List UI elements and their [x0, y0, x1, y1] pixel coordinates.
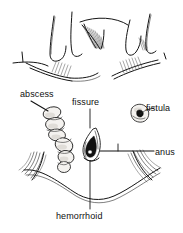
illustration-canvas: [0, 0, 183, 233]
mucosal-column-center: [71, 12, 82, 56]
label-hemorrhoid: hemorrhoid: [56, 211, 103, 221]
label-fistula: fistula: [146, 103, 170, 113]
fissure-highlight: [88, 150, 92, 154]
label-fissure: fissure: [72, 97, 99, 107]
anorectal-conditions-figure: abscess fissure fistula anus hemorrhoid: [0, 0, 183, 233]
left-lower-sweep-2: [30, 68, 72, 81]
upper-anatomy-panel: [13, 12, 166, 81]
right-spur: [164, 53, 166, 59]
fistula-dark-center: [137, 110, 144, 117]
mucosal-column-farright: [146, 14, 156, 53]
left-lower-sweep: [26, 63, 70, 78]
abscess-shade-5: [60, 157, 69, 162]
leader-abscess: [31, 101, 48, 111]
label-abscess: abscess: [20, 89, 54, 99]
left-spur: [22, 52, 23, 62]
abscess-shade-4: [57, 144, 67, 149]
label-anus: anus: [155, 147, 175, 157]
perianal-arch-main: [24, 168, 160, 199]
abscess-shade-3: [51, 135, 60, 140]
abscess-structure: [42, 105, 75, 173]
left-lower-join: [70, 73, 98, 78]
fold-arch-top: [80, 18, 128, 25]
abscess-shade-2: [48, 123, 58, 128]
perianal-arch-second: [26, 173, 160, 203]
fissure-structure: [83, 128, 100, 161]
right-lower-sweep: [112, 60, 158, 76]
abscess-shade-1: [45, 112, 55, 117]
